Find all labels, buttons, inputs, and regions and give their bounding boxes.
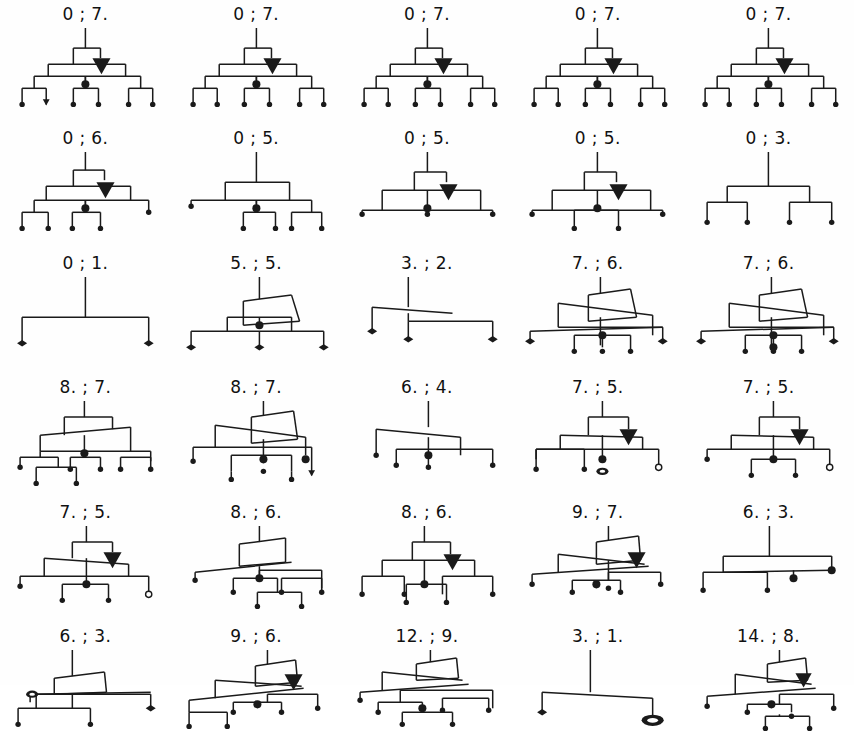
hollow-circle-terminal [827, 465, 833, 471]
filled-dot-terminal [96, 102, 101, 107]
filled-dot-terminal [763, 726, 768, 731]
filled-dot-terminal [214, 102, 219, 107]
filled-dot-terminal [146, 210, 151, 215]
filled-dot-terminal [606, 585, 611, 590]
solid-triangle-marker [439, 185, 457, 201]
tree-label-r1c3: 0 ; 7. [404, 6, 450, 23]
diamond-terminal [186, 344, 196, 350]
tree-label-r6c3: 12. ; 9. [395, 628, 458, 645]
filled-dot-terminal [492, 102, 497, 107]
filled-dot-terminal [261, 469, 266, 474]
filled-dot-terminal [252, 205, 260, 213]
tree-label-r5c2: 8. ; 6. [230, 504, 282, 521]
filled-dot-terminal [186, 724, 191, 729]
diamond-terminal [17, 340, 27, 346]
filled-dot-terminal [106, 598, 111, 603]
tree-label-r5c1: 7. ; 5. [60, 504, 112, 521]
tree-diagram-r3c5 [683, 273, 854, 373]
tree-cell-r2c2: 0 ; 5. [171, 124, 342, 248]
tree-cell-r2c4: 0 ; 5. [512, 124, 683, 248]
filled-dot-terminal [793, 473, 798, 478]
tree-label-r3c5: 7. ; 6. [743, 255, 795, 272]
filled-dot-terminal [423, 80, 431, 88]
tree-label-r2c3: 0 ; 5. [404, 130, 450, 147]
solid-triangle-marker [96, 183, 114, 199]
ring-terminal [26, 691, 38, 698]
filled-dot-terminal [829, 220, 834, 225]
filled-dot-terminal [600, 349, 605, 354]
tree-cell-r6c1: 6. ; 3. [0, 622, 171, 735]
tree-diagram-r1c4 [512, 24, 683, 124]
filled-dot-terminal [486, 708, 491, 713]
filled-dot-terminal [373, 453, 378, 458]
ring-terminal [642, 715, 664, 726]
tree-label-r2c4: 0 ; 5. [575, 130, 621, 147]
diamond-terminal [318, 344, 328, 350]
filled-dot-terminal [17, 465, 22, 470]
tree-label-r5c4: 9. ; 7. [572, 504, 624, 521]
filled-dot-terminal [252, 80, 260, 88]
filled-dot-terminal [530, 212, 535, 217]
filled-dot-terminal [833, 102, 838, 107]
tree-cell-r3c1: 0 ; 1. [0, 249, 171, 373]
arrow-head-terminal [43, 99, 50, 105]
tree-cell-r1c2: 0 ; 7. [171, 0, 342, 124]
solid-triangle-marker [776, 58, 794, 74]
filled-dot-terminal [424, 206, 429, 211]
hollow-circle-terminal [656, 465, 662, 471]
filled-dot-terminal [19, 102, 24, 107]
filled-dot-terminal [297, 102, 302, 107]
diamond-terminal [487, 336, 497, 342]
filled-dot-terminal [279, 710, 284, 715]
tree-label-r1c5: 0 ; 7. [746, 6, 792, 23]
filled-dot-terminal [705, 457, 710, 462]
tree-cell-r4c5: 7. ; 5. [683, 373, 854, 497]
filled-dot-terminal [253, 701, 261, 709]
filled-dot-terminal [768, 701, 776, 709]
filled-dot-terminal [789, 714, 794, 719]
tree-label-r3c4: 7. ; 6. [572, 255, 624, 272]
filled-dot-terminal [765, 80, 773, 88]
filled-dot-terminal [570, 589, 575, 594]
tree-label-r4c4: 7. ; 5. [572, 379, 624, 396]
tree-cell-r5c4: 9. ; 7. [512, 498, 683, 622]
tree-cell-r3c3: 3. ; 2. [342, 249, 513, 373]
filled-dot-terminal [393, 463, 398, 468]
filled-dot-terminal [255, 574, 263, 582]
tree-label-r3c1: 0 ; 1. [62, 255, 108, 272]
filled-dot-terminal [443, 600, 448, 605]
diamond-terminal [367, 328, 377, 334]
tree-diagram-r5c3 [342, 522, 513, 622]
hollow-circle-terminal [146, 591, 152, 597]
solid-triangle-marker [284, 674, 302, 690]
filled-dot-terminal [660, 212, 665, 217]
diamond-terminal [696, 338, 706, 344]
diamond-terminal [525, 338, 535, 344]
tree-cell-r3c4: 7. ; 6. [512, 249, 683, 373]
solid-triangle-marker [610, 185, 628, 201]
tree-diagram-r6c2 [171, 646, 342, 735]
filled-dot-terminal [255, 321, 263, 329]
filled-dot-terminal [401, 591, 406, 596]
tree-diagram-r1c1 [0, 24, 171, 124]
filled-dot-terminal [437, 102, 442, 107]
filled-dot-terminal [19, 226, 24, 231]
filled-dot-terminal [192, 577, 197, 582]
filled-dot-terminal [439, 708, 444, 713]
tree-diagram-r3c1 [0, 273, 171, 373]
tree-diagram-r5c1 [0, 522, 171, 622]
filled-dot-terminal [582, 467, 587, 472]
tree-label-r6c5: 14. ; 8. [737, 628, 800, 645]
solid-triangle-marker [263, 58, 281, 74]
tree-cell-r4c4: 7. ; 5. [512, 373, 683, 497]
tree-cell-r5c5: 6. ; 3. [683, 498, 854, 622]
filled-dot-terminal [259, 456, 267, 464]
filled-dot-terminal [71, 102, 76, 107]
filled-dot-terminal [599, 331, 607, 339]
filled-dot-terminal [594, 80, 602, 88]
filled-dot-terminal [126, 102, 131, 107]
filled-dot-terminal [230, 589, 235, 594]
filled-dot-terminal [357, 698, 362, 703]
tree-label-r3c3: 3. ; 2. [401, 255, 453, 272]
